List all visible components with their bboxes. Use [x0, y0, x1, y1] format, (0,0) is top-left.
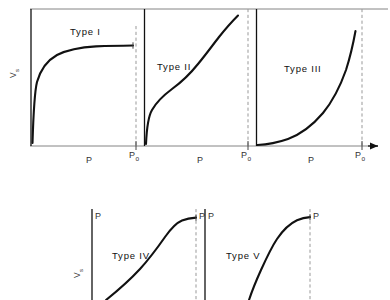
panel-type-2: Type II P P o: [145, 9, 252, 165]
type1-x-axis-label: P: [86, 155, 92, 165]
isotherm-figure: V s Type I P P o Type II P P o: [0, 0, 390, 300]
type2-saturation-label: P o: [241, 150, 252, 162]
type5-po-label: P: [313, 211, 319, 221]
type2-po-text: P: [241, 150, 247, 160]
type2-po-subscript: o: [248, 155, 252, 162]
type1-label: Type I: [70, 26, 101, 37]
type3-curve: [258, 31, 356, 145]
type3-x-axis-label: P: [308, 155, 314, 165]
y-axis-label-subscript-bottom: s: [78, 269, 84, 272]
type3-saturation-label: P o: [355, 150, 366, 162]
y-axis-label-subscript: s: [14, 69, 20, 72]
type5-p-label: P: [208, 211, 214, 221]
type4-po-label: P: [199, 211, 205, 221]
panel-type-4: V s P P Type IV: [72, 209, 205, 300]
type2-x-axis-label: P: [197, 155, 203, 165]
type3-po-text: P: [355, 150, 361, 160]
type4-label: Type IV: [112, 250, 150, 261]
type3-po-subscript: o: [362, 155, 366, 162]
type5-label: Type V: [226, 250, 260, 261]
panel-type-3: Type III P P o: [257, 9, 366, 165]
type1-y-axis-label: V s: [8, 69, 20, 78]
type3-label: Type III: [284, 63, 322, 74]
type2-label: Type II: [157, 61, 191, 72]
type1-po-subscript: o: [136, 155, 140, 162]
x-axis-arrowhead: [370, 143, 378, 150]
type4-p-label: P: [95, 211, 101, 221]
type4-y-axis-label: V s: [72, 269, 84, 278]
type1-po-text: P: [129, 150, 135, 160]
type1-curve: [33, 46, 134, 144]
panel-type-5: P P Type V: [205, 209, 319, 300]
type1-saturation-label: P o: [129, 150, 140, 162]
panel-type-1: V s Type I P P o: [8, 9, 140, 165]
type2-curve: [146, 16, 238, 145]
